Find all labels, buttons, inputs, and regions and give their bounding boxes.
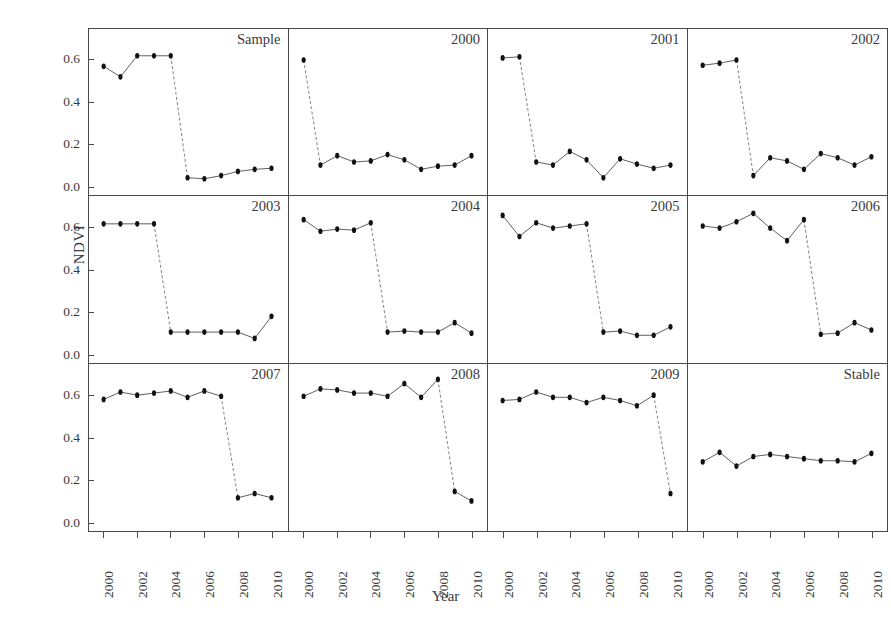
data-point-marker: [517, 54, 521, 60]
data-point-marker: [869, 450, 873, 456]
data-point-marker: [368, 220, 372, 226]
data-point-marker: [801, 217, 805, 223]
panel-title: 2007: [252, 366, 281, 383]
chart-panel: 2000: [289, 29, 489, 196]
x-tick-mark: [238, 532, 239, 538]
series-line: [454, 491, 471, 501]
data-point-marker: [236, 330, 240, 336]
break-segment: [221, 396, 238, 498]
data-point-marker: [635, 161, 639, 167]
x-tick-label: 2002: [735, 552, 751, 598]
x-tick-mark: [472, 532, 473, 538]
data-point-marker: [368, 390, 372, 396]
x-tick-label: 2006: [402, 552, 418, 598]
data-point-marker: [534, 389, 538, 395]
break-segment: [803, 220, 820, 335]
data-point-marker: [202, 388, 206, 394]
data-point-marker: [700, 62, 704, 68]
x-tick-label: 2010: [470, 552, 486, 598]
x-tick-mark: [537, 532, 538, 538]
break-segment: [154, 224, 171, 332]
break-segment: [303, 60, 320, 165]
x-tick-mark: [272, 532, 273, 538]
x-tick-label: 2008: [836, 552, 852, 598]
x-tick-mark: [672, 532, 673, 538]
data-point-marker: [385, 330, 389, 336]
data-point-marker: [301, 393, 305, 399]
y-tick-label: 0.6: [40, 219, 80, 235]
data-point-marker: [601, 175, 605, 181]
panel-title: 2006: [851, 198, 880, 215]
data-point-marker: [835, 458, 839, 464]
x-tick-mark: [303, 532, 304, 538]
data-point-marker: [236, 169, 240, 175]
data-point-marker: [584, 399, 588, 405]
series-line: [536, 151, 670, 177]
data-point-marker: [784, 453, 788, 459]
data-point-marker: [717, 449, 721, 455]
data-point-marker: [668, 162, 672, 168]
data-point-marker: [818, 332, 822, 338]
data-point-marker: [734, 57, 738, 63]
data-point-marker: [635, 333, 639, 339]
panel-title: 2000: [451, 31, 480, 48]
break-segment: [370, 223, 387, 332]
data-point-marker: [618, 397, 622, 403]
chart-panel: 2001: [488, 29, 688, 196]
panel-title: 2004: [451, 198, 480, 215]
panel-grid: Sample2000200120022003200420052006200720…: [88, 28, 888, 532]
data-point-marker: [301, 217, 305, 223]
y-tick-label: 0.6: [40, 51, 80, 67]
data-point-marker: [351, 228, 355, 234]
panel-title: 2002: [851, 31, 880, 48]
chart-panel: 2005: [488, 196, 688, 363]
data-point-marker: [435, 163, 439, 169]
data-point-marker: [501, 397, 505, 403]
series-line: [387, 323, 471, 334]
data-point-marker: [801, 455, 805, 461]
x-tick-label: 2000: [301, 552, 317, 598]
break-segment: [587, 224, 604, 332]
x-tick-label: 2008: [636, 552, 652, 598]
data-point-marker: [517, 234, 521, 240]
break-segment: [437, 379, 454, 491]
data-point-marker: [419, 330, 423, 336]
data-point-marker: [517, 396, 521, 402]
data-point-marker: [253, 166, 257, 172]
data-point-marker: [202, 176, 206, 182]
data-point-marker: [135, 392, 139, 398]
x-tick-mark: [438, 532, 439, 538]
data-point-marker: [102, 396, 106, 402]
series-line: [820, 323, 871, 335]
data-point-marker: [751, 453, 755, 459]
x-tick-label: 2010: [270, 552, 286, 598]
panel-title: 2003: [252, 198, 281, 215]
y-tick-label: 0.0: [40, 347, 80, 363]
x-tick-label: 2004: [168, 552, 184, 598]
data-point-marker: [452, 162, 456, 168]
chart-panel: 2008: [289, 364, 489, 531]
data-point-marker: [118, 389, 122, 395]
x-tick-mark: [804, 532, 805, 538]
data-point-marker: [219, 393, 223, 399]
data-point-marker: [469, 331, 473, 337]
data-point-marker: [852, 459, 856, 465]
data-point-marker: [452, 320, 456, 326]
data-point-marker: [269, 314, 273, 320]
data-point-marker: [118, 74, 122, 80]
x-tick-mark: [103, 532, 104, 538]
data-point-marker: [652, 392, 656, 398]
data-point-marker: [768, 451, 772, 457]
x-tick-mark: [337, 532, 338, 538]
data-point-marker: [335, 387, 339, 393]
data-point-marker: [351, 390, 355, 396]
x-tick-mark: [503, 532, 504, 538]
data-point-marker: [169, 53, 173, 59]
data-point-marker: [700, 223, 704, 229]
x-tick-label: 2010: [870, 552, 886, 598]
data-point-marker: [534, 159, 538, 165]
data-point-marker: [584, 221, 588, 227]
x-tick-label: 2002: [335, 552, 351, 598]
data-point-marker: [253, 336, 257, 342]
panel-title: Stable: [844, 366, 880, 383]
